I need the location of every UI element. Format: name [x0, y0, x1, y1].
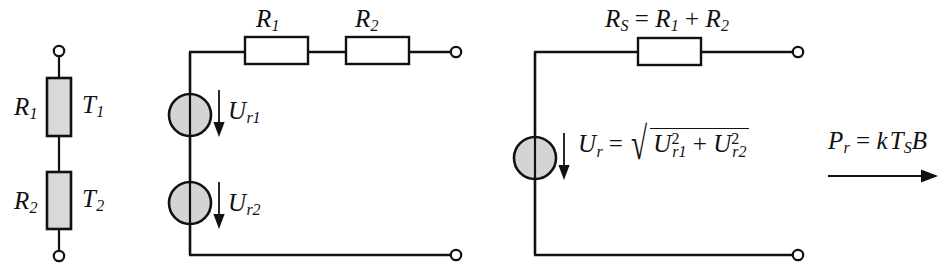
label-r2-middle: R2	[355, 6, 379, 34]
label-ur1: Ur1	[228, 98, 261, 126]
resistor-rs	[638, 38, 701, 65]
label-t2-left: T2	[82, 186, 104, 214]
middle-top-terminal	[451, 47, 461, 57]
right-top-terminal	[793, 47, 803, 57]
resistor-r2-middle	[346, 37, 409, 64]
label-r2-left: R2	[14, 188, 38, 216]
middle-bottom-terminal	[451, 250, 461, 260]
resistor-r2-left	[47, 172, 71, 229]
label-ur-equation: Ur = √U2r1 + U2r2	[578, 128, 749, 160]
resistor-r1-left	[47, 78, 71, 136]
left-bottom-terminal	[54, 251, 64, 261]
circuit-schematic-canvas	[0, 0, 943, 278]
label-r1-middle: R1	[256, 6, 280, 34]
output-arrow-head	[921, 170, 938, 183]
radicand: U2r1 + U2r2	[650, 128, 749, 160]
left-top-terminal	[54, 46, 64, 56]
left-panel-circuit	[47, 46, 71, 261]
middle-panel-circuit	[169, 37, 461, 260]
right-bottom-terminal	[793, 250, 803, 260]
output-power-arrow	[828, 170, 938, 183]
label-r1-left: R1	[14, 94, 38, 122]
label-ur2: Ur2	[228, 190, 261, 218]
square-root-expression: √U2r1 + U2r2	[629, 128, 749, 160]
arrow-ur-head	[558, 165, 569, 180]
label-t1-left: T1	[82, 92, 104, 120]
radical-sign: √	[631, 128, 647, 160]
noise-equivalent-circuit-figure: R1 T1 R2 T2 R1 R2 Ur1 Ur2 RS = R1 + R2 U…	[0, 0, 943, 278]
resistor-r1-middle	[245, 37, 308, 64]
arrow-ur1-head	[213, 122, 224, 137]
label-noise-power-equation: Pr = k TSB	[828, 128, 927, 156]
label-rs-equation: RS = R1 + R2	[605, 6, 729, 34]
arrow-ur2-head	[213, 214, 224, 229]
